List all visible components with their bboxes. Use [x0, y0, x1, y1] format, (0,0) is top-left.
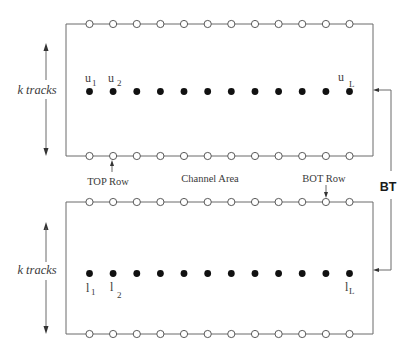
pin-terminal	[228, 198, 235, 205]
pin-terminal	[110, 20, 117, 27]
channel-diagram: k tracks u 1 u 2 u L TOP Row Channel Are…	[0, 0, 410, 356]
pin-terminal	[180, 152, 187, 159]
pin-terminal	[204, 198, 211, 205]
cell-node	[133, 88, 140, 95]
cell-node	[299, 88, 306, 95]
svg-text:1: 1	[92, 78, 97, 88]
pin-terminal	[86, 198, 93, 205]
cell-node	[228, 270, 235, 277]
pin-terminal	[157, 330, 164, 337]
pin-terminal	[275, 20, 282, 27]
pin-terminal	[322, 330, 329, 337]
pin-terminal	[275, 330, 282, 337]
cell-node	[204, 270, 211, 277]
top-row-label: TOP Row	[87, 176, 129, 187]
cell-node	[204, 88, 211, 95]
bottom-block-cells	[86, 270, 353, 277]
cell-node	[228, 88, 235, 95]
svg-text:2: 2	[117, 290, 122, 300]
pin-terminal	[133, 330, 140, 337]
cell-node	[275, 270, 282, 277]
cell-node	[86, 88, 93, 95]
pin-terminal	[110, 152, 117, 159]
cell-node	[157, 88, 164, 95]
pin-terminal	[322, 198, 329, 205]
arrow-left-icon	[373, 88, 379, 92]
bottom-block: k tracks l 1 l 2 l L	[17, 198, 373, 337]
k-tracks-label-bottom: k tracks	[17, 263, 56, 277]
top-block: k tracks u 1 u 2 u L	[17, 20, 373, 159]
cell-label-lL: l L	[345, 280, 355, 296]
pin-terminal	[251, 198, 258, 205]
bt-bracket-lower	[378, 199, 391, 270]
cell-label-u1: u 1	[85, 71, 97, 88]
pin-terminal	[86, 152, 93, 159]
pin-terminal	[299, 152, 306, 159]
pin-terminal	[299, 198, 306, 205]
cell-node	[346, 88, 353, 95]
pin-terminal	[86, 330, 93, 337]
channel-area: TOP Row Channel Area BOT Row	[87, 160, 346, 198]
bt-connector: BT	[373, 88, 397, 272]
cell-node	[181, 270, 188, 277]
svg-text:L: L	[349, 286, 355, 296]
cell-label-l2: l 2	[110, 280, 122, 300]
pin-terminal	[299, 330, 306, 337]
cell-node	[252, 88, 259, 95]
bt-bracket-upper	[378, 90, 391, 171]
pin-terminal	[133, 20, 140, 27]
pin-terminal	[251, 152, 258, 159]
cell-node	[181, 88, 188, 95]
cell-label-u2: u 2	[108, 71, 122, 88]
pin-terminal	[346, 20, 353, 27]
pin-terminal	[157, 152, 164, 159]
pin-terminal	[204, 20, 211, 27]
cell-node	[323, 88, 330, 95]
bt-label: BT	[380, 180, 397, 194]
svg-text:l: l	[86, 281, 90, 295]
svg-text:2: 2	[117, 78, 122, 88]
pin-terminal	[157, 20, 164, 27]
svg-text:L: L	[349, 79, 355, 89]
cell-node	[275, 88, 282, 95]
cell-node	[110, 270, 117, 277]
arrow-down-icon	[44, 326, 49, 334]
arrow-down-icon	[44, 148, 49, 156]
arrow-left-icon	[373, 268, 379, 272]
arrow-up-icon	[110, 160, 114, 166]
cell-node	[86, 270, 93, 277]
cell-node	[157, 270, 164, 277]
pin-terminal	[204, 152, 211, 159]
arrow-down-icon	[324, 192, 328, 198]
pin-terminal	[180, 330, 187, 337]
pin-terminal	[133, 152, 140, 159]
cell-node	[110, 88, 117, 95]
svg-text:u: u	[108, 71, 114, 85]
pin-terminal	[322, 20, 329, 27]
pin-terminal	[228, 330, 235, 337]
cell-node	[133, 270, 140, 277]
pin-terminal	[157, 198, 164, 205]
pin-terminal	[228, 152, 235, 159]
pin-terminal	[110, 198, 117, 205]
pin-terminal	[346, 152, 353, 159]
pin-terminal	[180, 20, 187, 27]
cell-label-uL: u L	[338, 70, 355, 89]
pin-terminal	[275, 198, 282, 205]
cell-node	[346, 270, 353, 277]
cell-node	[299, 270, 306, 277]
pin-terminal	[346, 198, 353, 205]
pin-terminal	[251, 20, 258, 27]
svg-text:1: 1	[91, 287, 96, 297]
svg-text:u: u	[338, 70, 344, 84]
pin-terminal	[228, 20, 235, 27]
pin-terminal	[346, 330, 353, 337]
pin-terminal	[133, 198, 140, 205]
k-tracks-label-top: k tracks	[17, 83, 56, 97]
channel-area-label: Channel Area	[181, 173, 239, 184]
pin-terminal	[180, 198, 187, 205]
pin-terminal	[322, 152, 329, 159]
pin-terminal	[251, 330, 258, 337]
bot-row-label: BOT Row	[302, 173, 346, 184]
pin-terminal	[86, 20, 93, 27]
